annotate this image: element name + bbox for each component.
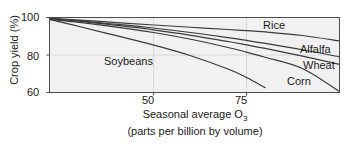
y-tick-label-80: 80 xyxy=(27,50,39,62)
x-axis-title: Seasonal average O3 (parts per billion b… xyxy=(49,108,341,138)
y-axis-title: Crop yield (%) xyxy=(8,12,20,88)
y-tick-label-60: 60 xyxy=(27,86,39,98)
series-label-alfalfa: Alfalfa xyxy=(299,43,332,55)
y-tick-label-100: 100 xyxy=(21,11,39,23)
crop-yield-ozone-chart: Crop yield (%) 100 80 60 50 75 Seasonal … xyxy=(0,0,350,148)
x-tick-label-75: 75 xyxy=(235,94,247,106)
series-label-corn: Corn xyxy=(286,75,312,87)
x-axis-title-line1: Seasonal average O3 xyxy=(49,108,341,125)
series-label-soybeans: Soybeans xyxy=(103,55,154,67)
x-axis-title-subscript: 3 xyxy=(243,114,247,123)
series-label-wheat: Wheat xyxy=(302,59,336,71)
x-axis-title-line2: (parts per billion by volume) xyxy=(49,125,341,138)
series-label-rice: Rice xyxy=(262,19,286,31)
x-axis-title-text: Seasonal average O xyxy=(143,108,243,120)
x-tick-label-50: 50 xyxy=(142,94,154,106)
